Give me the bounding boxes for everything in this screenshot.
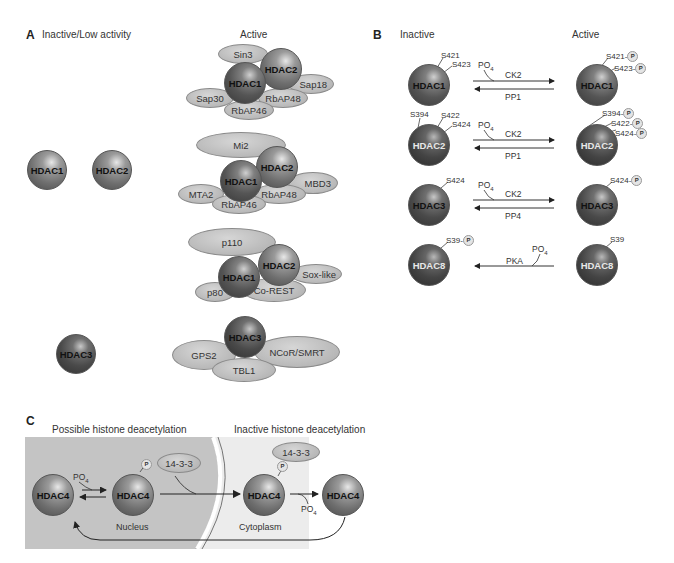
adaptor-14-3-3: 14-3-3 [157,453,201,473]
phosphate-icon: P [141,459,152,470]
cytoplasm-label: Cytoplasm [239,522,282,532]
hdac4-sphere-nuclear: HDAC4 [32,474,74,516]
hdac4-sphere-cytoplasm: HDAC4 [322,474,364,516]
po4-label: PO4 [73,472,89,484]
hdac4-sphere-phospho-nuclear: HDAC4 [112,474,154,516]
adaptor-14-3-3: 14-3-3 [272,442,320,462]
po4-label: PO4 [301,504,317,516]
hdac4-sphere-phospho-cytoplasm: HDAC4 [243,474,285,516]
phosphate-icon: P [277,461,288,472]
nucleus-label: Nucleus [116,522,149,532]
